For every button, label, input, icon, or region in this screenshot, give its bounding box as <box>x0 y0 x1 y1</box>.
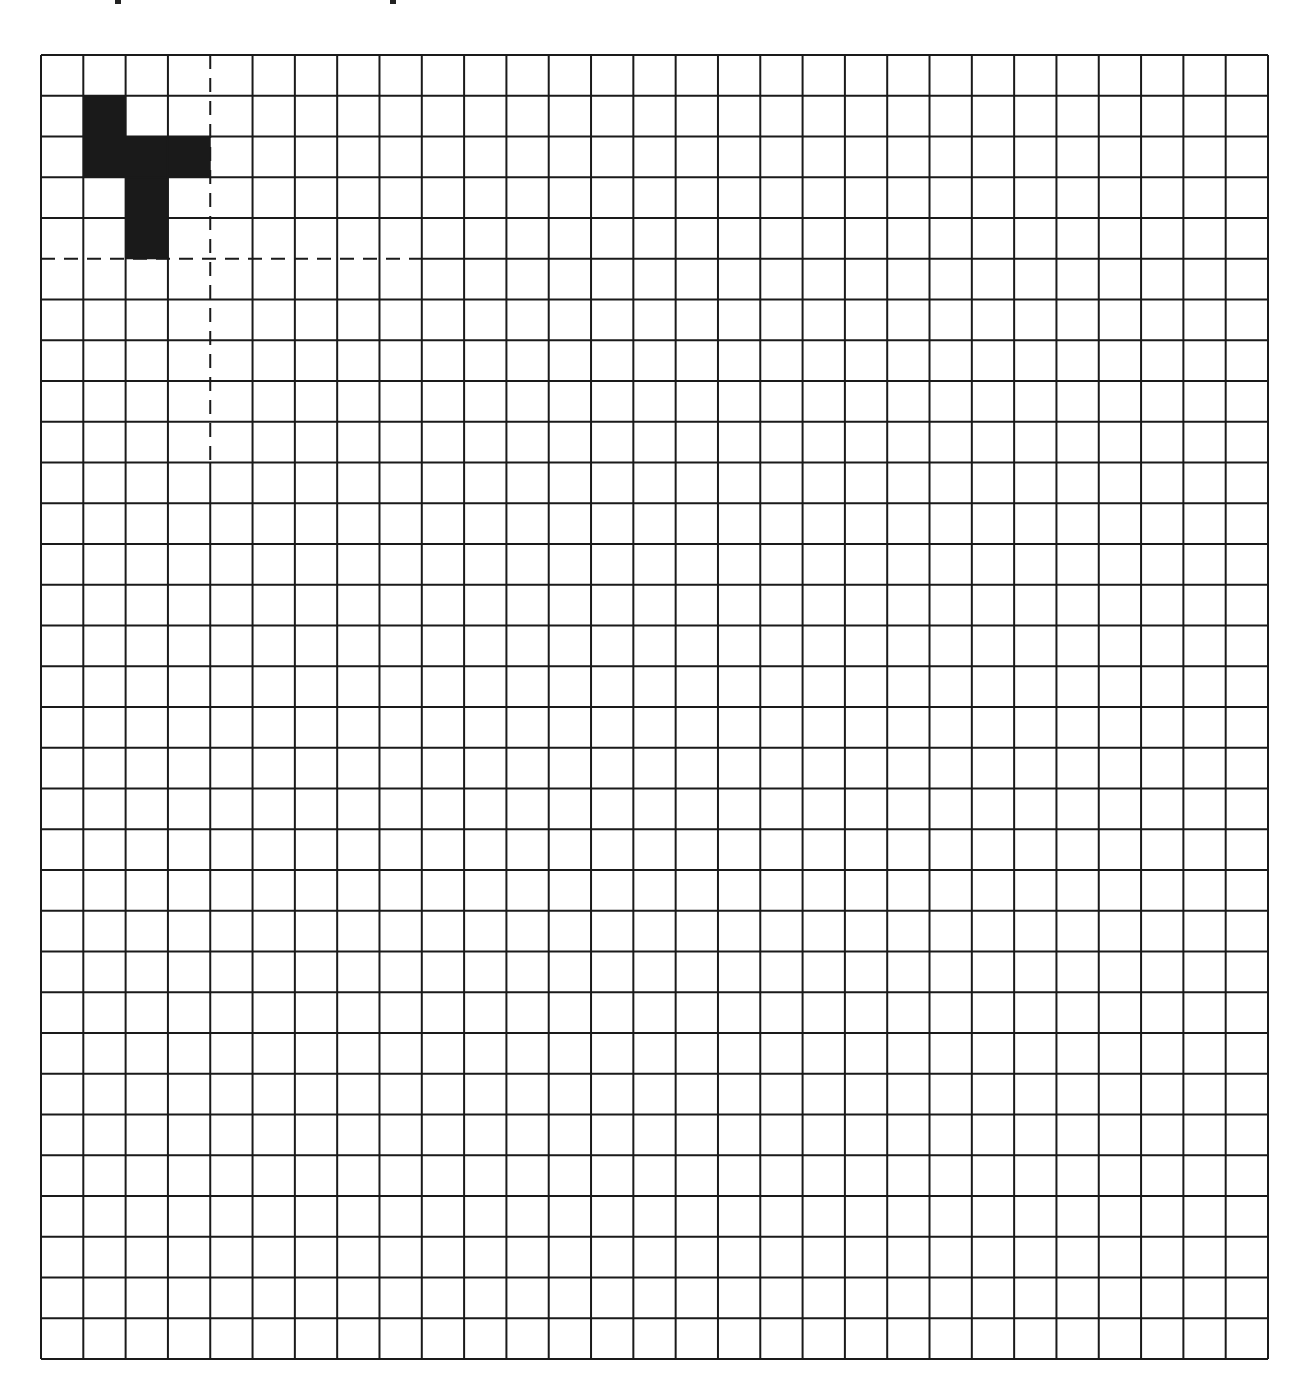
grid-diagram <box>0 0 1306 1400</box>
filled-cell <box>126 177 169 218</box>
filled-cell <box>168 137 211 178</box>
filled-cell <box>126 218 169 259</box>
filled-cell <box>83 137 126 178</box>
filled-cell <box>126 137 169 178</box>
grid-lines <box>41 55 1268 1359</box>
filled-cell <box>83 96 126 137</box>
